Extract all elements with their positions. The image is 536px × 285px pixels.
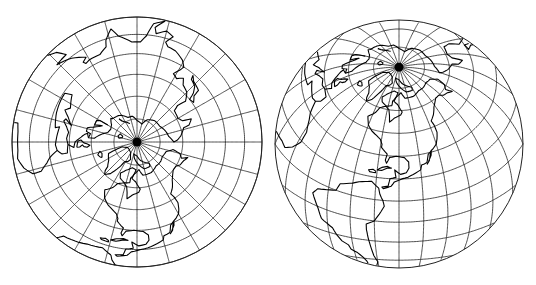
north-pole-marker: [395, 63, 404, 72]
map-figure: [0, 0, 536, 285]
oblique-globe-map: [0, 0, 536, 285]
